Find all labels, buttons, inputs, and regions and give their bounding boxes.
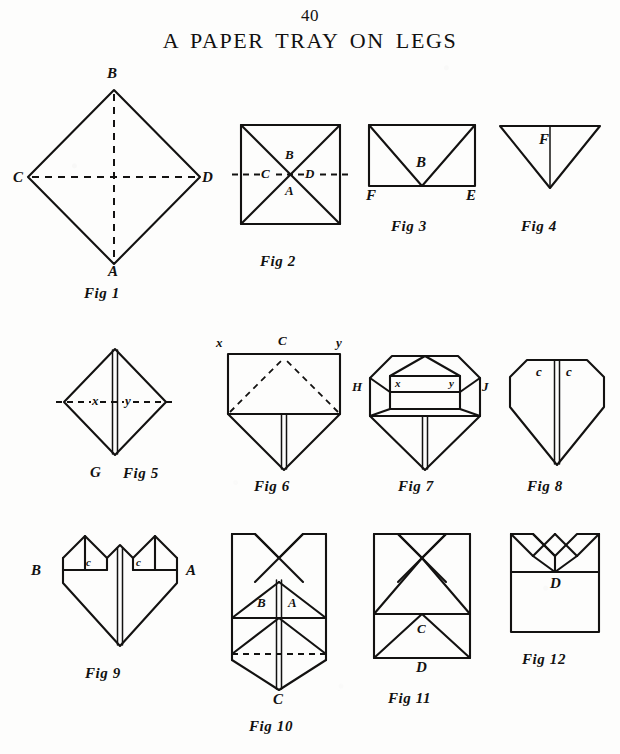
fig6-label-x: x xyxy=(216,336,223,349)
fig7-drawing xyxy=(364,348,486,473)
caption-fig1: Fig 1 xyxy=(84,285,120,302)
fig7-label-J: J xyxy=(482,380,489,393)
fig8-label-c-left: c xyxy=(536,365,542,378)
figure-fig3: B F E xyxy=(366,122,478,192)
fig9-label-c-right: c xyxy=(136,557,141,568)
fig5-drawing xyxy=(60,345,170,460)
fig3-label-F: F xyxy=(366,188,376,203)
fig8-label-c-right: c xyxy=(566,365,572,378)
fig3-label-E: E xyxy=(466,188,476,203)
caption-fig3: Fig 3 xyxy=(391,218,427,235)
caption-fig5: Fig 5 xyxy=(123,465,159,482)
fig6-label-C: C xyxy=(278,334,287,347)
fig10-label-C: C xyxy=(273,692,283,707)
fig5-label-y: y xyxy=(124,394,132,407)
fig6-drawing xyxy=(224,348,344,473)
fig5-label-x: x xyxy=(91,394,100,407)
figure-fig7: H J x y xyxy=(364,348,486,473)
fig1-label-D: D xyxy=(202,170,213,185)
fig12-label-D: D xyxy=(550,576,561,591)
fig2-drawing xyxy=(238,122,343,227)
fig5-label-G: G xyxy=(90,465,101,480)
caption-fig2: Fig 2 xyxy=(260,253,296,270)
fig9-label-c-left: c xyxy=(86,557,91,568)
fig7-label-H: H xyxy=(352,380,362,393)
figure-fig10: B A C xyxy=(224,528,334,693)
caption-fig9: Fig 9 xyxy=(85,665,121,682)
caption-fig4: Fig 4 xyxy=(521,218,557,235)
fig1-label-A: A xyxy=(108,264,118,279)
fig7-label-y: y xyxy=(449,378,454,389)
fig10-drawing xyxy=(224,528,334,693)
caption-fig10: Fig 10 xyxy=(249,718,293,735)
fig10-label-B: B xyxy=(257,596,266,609)
figure-fig4: F xyxy=(496,122,604,192)
fig6-label-y: y xyxy=(336,336,342,349)
caption-fig6: Fig 6 xyxy=(254,478,290,495)
page-title: A PAPER TRAY ON LEGS xyxy=(0,28,620,54)
fig9-label-B: B xyxy=(31,563,41,578)
fig2-label-B: B xyxy=(285,148,294,161)
fig2-label-D: D xyxy=(304,167,315,180)
fig11-label-C: C xyxy=(417,622,426,635)
figure-fig6: x C y xyxy=(224,348,344,473)
fig9-drawing xyxy=(55,528,185,653)
fig2-label-C: C xyxy=(260,167,271,180)
fig3-label-B: B xyxy=(416,155,426,170)
figure-fig5: x y xyxy=(60,345,170,460)
page-canvas: 40 A PAPER TRAY ON LEGS B C D A Fig 1 B … xyxy=(0,0,620,754)
caption-fig12: Fig 12 xyxy=(522,651,566,668)
fig7-label-x: x xyxy=(395,378,401,389)
caption-fig7: Fig 7 xyxy=(398,478,434,495)
fig11-drawing xyxy=(368,528,476,663)
caption-fig11: Fig 11 xyxy=(388,690,431,707)
page-number: 40 xyxy=(0,6,620,26)
fig4-label-F: F xyxy=(539,132,549,147)
fig9-label-A: A xyxy=(186,563,196,578)
caption-fig8: Fig 8 xyxy=(527,478,563,495)
fig2-label-A: A xyxy=(285,184,294,197)
fig4-drawing xyxy=(496,122,604,192)
fig1-label-C: C xyxy=(13,170,23,185)
figure-fig8: c c xyxy=(505,355,609,470)
fig10-label-A: A xyxy=(288,596,297,609)
figure-fig2: B C D A xyxy=(238,122,343,227)
fig8-drawing xyxy=(505,355,609,470)
fig1-label-B: B xyxy=(107,66,117,81)
figure-fig12: D xyxy=(505,528,605,638)
figure-fig9: c c B A xyxy=(55,528,185,653)
fig1-drawing xyxy=(14,72,214,272)
figure-fig11: C D xyxy=(368,528,476,663)
fig11-label-D: D xyxy=(416,660,427,675)
figure-fig1: B C D A xyxy=(14,72,214,272)
